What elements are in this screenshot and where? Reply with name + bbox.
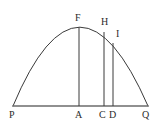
vertex-label-I: I (116, 29, 119, 39)
vertex-label-A: A (75, 110, 82, 120)
vertex-label-C: C (99, 110, 106, 120)
vertex-label-P: P (9, 110, 15, 120)
vertex-label-H: H (101, 17, 108, 27)
vertex-label-D: D (109, 110, 116, 120)
vertex-label-F: F (75, 13, 81, 23)
geometry-figure: P A C D Q F H I (0, 0, 157, 133)
vertex-label-Q: Q (142, 110, 149, 120)
